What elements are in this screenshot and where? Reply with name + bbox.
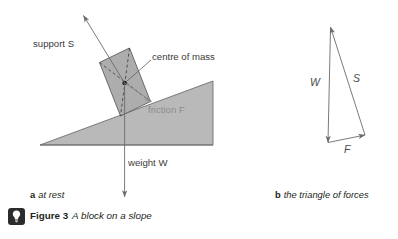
weight-label: weight W xyxy=(127,157,168,168)
caption-panel-a: aat rest xyxy=(30,189,64,200)
friction-label: friction F xyxy=(148,104,185,115)
caption-panel-b: bthe triangle of forces xyxy=(275,189,369,200)
lightbulb-glyph xyxy=(8,208,25,225)
triangle-weight-arrow xyxy=(328,29,331,143)
support-label: support S xyxy=(33,38,74,49)
figure-number: Figure 3 xyxy=(30,210,68,221)
figure-title: A block on a slope xyxy=(72,210,152,221)
triangle-friction-arrow xyxy=(328,135,365,143)
triangle-weight-label: W xyxy=(310,76,321,88)
figure-caption: Figure 3 A block on a slope xyxy=(30,210,152,221)
lightbulb-icon xyxy=(8,208,25,225)
caption-a-text: at rest xyxy=(38,189,64,200)
triangle-support-label: S xyxy=(353,72,360,84)
figure-container: support S centre of mass friction F weig… xyxy=(0,0,398,239)
triangle-friction-label: F xyxy=(344,143,351,155)
caption-a-letter: a xyxy=(30,189,35,200)
physics-diagram: support S centre of mass friction F weig… xyxy=(0,0,398,239)
caption-b-letter: b xyxy=(275,189,281,200)
centre-of-mass-label: centre of mass xyxy=(152,51,215,62)
caption-b-text: the triangle of forces xyxy=(284,189,369,200)
